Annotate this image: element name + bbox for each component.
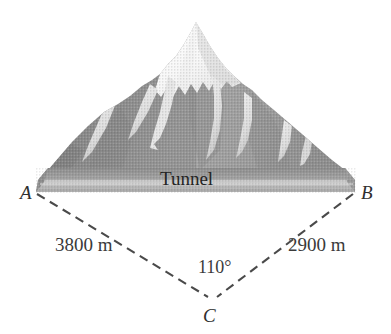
- halftone-texture: [40, 18, 355, 176]
- tunnel-label: Tunnel: [160, 169, 213, 188]
- figure-canvas: [0, 0, 391, 334]
- angle-measure-label-c: 110°: [198, 258, 232, 276]
- vertex-label-b: B: [361, 183, 373, 202]
- vertex-label-c: C: [203, 306, 216, 325]
- side-length-label-ac: 3800 m: [55, 235, 113, 254]
- side-length-label-bc: 2900 m: [288, 235, 346, 254]
- mountain-tunnel-figure: A B C 3800 m 2900 m 110° Tunnel: [0, 0, 391, 334]
- vertex-label-a: A: [20, 183, 32, 202]
- mountain-illustration: [40, 18, 355, 176]
